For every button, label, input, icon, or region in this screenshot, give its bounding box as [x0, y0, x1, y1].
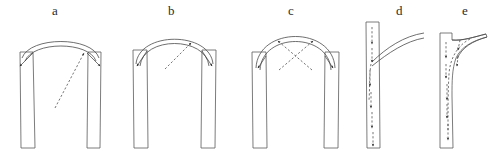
panel-b-arch-intrados: [140, 44, 209, 67]
panel-b: [133, 39, 216, 148]
panel-label-c: c: [288, 4, 294, 17]
panel-label-b: b: [168, 4, 175, 17]
panel-a-thrust-line-dashed: [55, 53, 84, 108]
panel-a-arch-intrados: [25, 46, 96, 61]
panel-e-load-arrow-7: [457, 56, 458, 66]
panel-a: [20, 42, 101, 149]
diagram-canvas: [0, 0, 489, 162]
arch-thrust-diagram: a b c d e: [0, 0, 489, 162]
panel-label-e: e: [462, 4, 468, 17]
panel-a-left-pier: [20, 52, 35, 148]
panel-d-pier: [366, 22, 380, 148]
panel-e-pier-with-haunch: [440, 33, 487, 148]
panel-label-a: a: [52, 4, 58, 17]
panel-c-left-pier: [252, 52, 267, 148]
panel-a-right-pier: [87, 52, 101, 148]
panel-label-d: d: [396, 4, 403, 17]
panel-c-thrust-line-dashed-left: [279, 41, 313, 70]
panel-b-thrust-line-dashed: [165, 43, 191, 69]
panel-d: [366, 22, 424, 148]
panel-a-arch-extrados: [22, 42, 99, 59]
panel-c-right-pier: [324, 52, 339, 148]
panel-c-thrust-line-dashed-right: [278, 41, 312, 70]
panel-e: [440, 33, 487, 148]
panel-c: [252, 37, 339, 149]
